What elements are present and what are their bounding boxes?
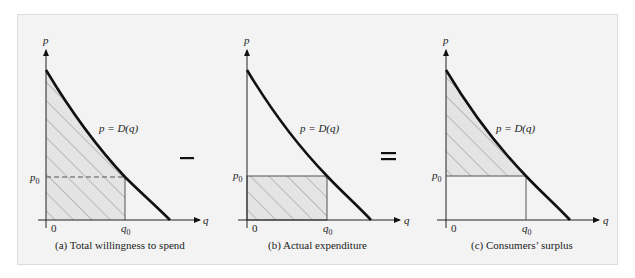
y-axis-label: p <box>42 34 49 46</box>
equals-operator <box>381 152 396 160</box>
curve-label: p = D(q) <box>299 122 340 135</box>
consumer-surplus-diagram: p q 0 p0 q0 p = D(q) (a) Total willingne… <box>0 0 635 278</box>
p0-label: p0 <box>431 169 442 184</box>
shaded-total-willingness <box>46 70 125 220</box>
panel-a-caption: (a) Total willingness to spend <box>55 239 185 252</box>
minus-operator <box>180 157 194 159</box>
panel-a: p q 0 p0 q0 p = D(q) (a) Total willingne… <box>29 34 209 252</box>
y-axis-label: p <box>243 34 250 46</box>
shaded-actual-expenditure <box>247 176 327 220</box>
origin-label: 0 <box>51 222 57 234</box>
x-axis-label: q <box>203 214 209 226</box>
y-axis-label: p <box>442 34 449 46</box>
panel-b-caption: (b) Actual expenditure <box>268 239 367 252</box>
p0-label: p0 <box>29 171 40 186</box>
panel-c: p q 0 p0 q0 p = D(q) (c) Consumers’ surp… <box>431 34 609 252</box>
x-axis-label: q <box>404 214 410 226</box>
origin-label: 0 <box>252 222 258 234</box>
curve-label: p = D(q) <box>495 122 536 135</box>
p0-label: p0 <box>232 169 243 184</box>
origin-label: 0 <box>451 222 457 234</box>
panel-b: p q 0 p0 q0 p = D(q) (b) Actual expendit… <box>232 34 410 252</box>
x-axis-label: q <box>603 214 609 226</box>
q0-label: q0 <box>522 222 532 237</box>
q0-label: q0 <box>323 222 333 237</box>
q0-label: q0 <box>121 222 131 237</box>
panel-c-caption: (c) Consumers’ surplus <box>471 239 573 252</box>
curve-label: p = D(q) <box>98 122 139 135</box>
